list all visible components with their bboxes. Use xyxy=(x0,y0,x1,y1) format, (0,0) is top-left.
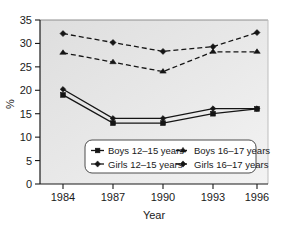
y-tick-label-0: 0 xyxy=(26,178,32,190)
legend-label-girls-12-15: Girls 12–15 years xyxy=(108,159,183,170)
y-axis-title: % xyxy=(4,99,16,109)
y-tick-label-15: 15 xyxy=(20,108,32,120)
x-axis-title: Year xyxy=(143,209,166,221)
legend-label-boys-16-17: Boys 16–17 years xyxy=(194,145,270,156)
chart-legend[interactable]: Boys 12–15 years Boys 16–17 years Girls … xyxy=(85,140,270,173)
y-tick-label-20: 20 xyxy=(20,84,32,96)
x-tick-label-1996: 1996 xyxy=(245,191,269,203)
y-tick-label-10: 10 xyxy=(20,131,32,143)
y-tick-label-25: 25 xyxy=(20,61,32,73)
legend-label-girls-16-17: Girls 16–17 years xyxy=(194,159,269,170)
line-chart: 0 5 10 15 20 25 30 35 1984 1987 1990 199… xyxy=(0,0,301,229)
x-tick-label-1984: 1984 xyxy=(51,191,75,203)
legend-marker-square-icon xyxy=(95,148,100,153)
x-tick-label-1993: 1993 xyxy=(201,191,225,203)
x-tick-label-1990: 1990 xyxy=(151,191,175,203)
chart-figure: 0 5 10 15 20 25 30 35 1984 1987 1990 199… xyxy=(0,0,301,229)
y-tick-label-35: 35 xyxy=(20,14,32,26)
y-tick-label-30: 30 xyxy=(20,37,32,49)
legend-label-boys-12-15: Boys 12–15 years xyxy=(108,145,184,156)
y-tick-label-5: 5 xyxy=(26,155,32,167)
x-tick-label-1987: 1987 xyxy=(101,191,125,203)
